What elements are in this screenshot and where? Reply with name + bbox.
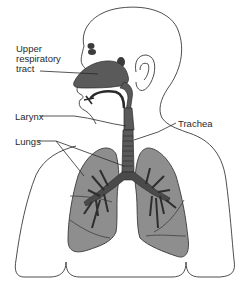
larynx <box>124 108 134 130</box>
respiratory-system-diagram: Upper respiratory tract Larynx Lungs Tra… <box>0 0 242 282</box>
nasal-cavity <box>74 61 129 88</box>
frontal-sinus <box>88 43 95 49</box>
leader-larynx <box>40 116 126 126</box>
label-upper-respiratory-tract: Upper respiratory tract <box>16 43 64 74</box>
label-tract: tract <box>16 63 35 74</box>
frontal-sinus-2 <box>88 49 96 55</box>
ear <box>135 55 154 91</box>
label-trachea: Trachea <box>178 118 213 129</box>
label-lungs: Lungs <box>15 136 41 147</box>
leader-trachea <box>134 123 176 140</box>
leader-lungs-1 <box>38 141 84 176</box>
ear-inner <box>140 63 149 80</box>
label-larynx: Larynx <box>15 111 44 122</box>
mouth <box>90 91 124 108</box>
